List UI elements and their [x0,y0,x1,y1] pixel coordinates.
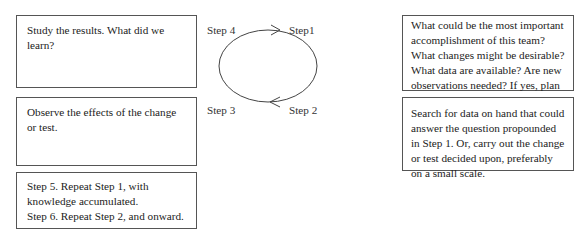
do-text: Search for data on hand that could answe… [411,106,565,181]
cycle-ellipse [219,30,317,102]
cycle-diagram [210,20,330,120]
study-text: Study the results. What did we learn? [27,23,186,53]
plan-box: What could be the most important accompl… [402,15,574,91]
repeat-text-step6: Step 6. Repeat Step 2, and onward. [27,209,186,224]
do-box: Search for data on hand that could answe… [402,97,574,171]
repeat-box: Step 5. Repeat Step 1, with knowledge ac… [16,172,197,229]
observe-box: Observe the effects of the change or tes… [16,97,197,166]
study-box: Study the results. What did we learn? [16,15,197,88]
observe-text: Observe the effects of the change or tes… [27,105,186,135]
repeat-text-step5: Step 5. Repeat Step 1, with knowledge ac… [27,179,186,209]
